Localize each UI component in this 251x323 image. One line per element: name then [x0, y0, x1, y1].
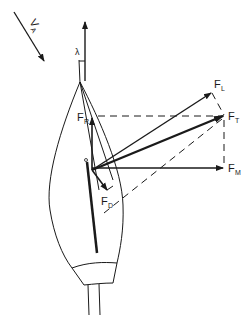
sail-lines [80, 82, 113, 190]
label-lateral: F M [228, 162, 241, 176]
apparent-wind-label: V A [26, 17, 44, 35]
sail-force-diagram: V A λ [0, 0, 251, 323]
svg-text:F: F [101, 195, 108, 207]
svg-text:M: M [235, 169, 241, 176]
boom [85, 159, 98, 254]
label-lift: F L [214, 78, 225, 92]
svg-text:D: D [108, 202, 113, 209]
label-drag: F D [101, 195, 113, 209]
leeway-angle-marker [79, 60, 85, 83]
svg-text:L: L [221, 85, 225, 92]
rudder-post [88, 284, 100, 315]
force-drag-vector [92, 170, 113, 190]
force-lift-vector [92, 93, 211, 170]
svg-text:F: F [214, 78, 221, 90]
leeway-angle-label: λ [75, 47, 80, 57]
force-total-vector [92, 116, 223, 170]
svg-text:T: T [235, 117, 240, 124]
label-total: F T [228, 110, 240, 124]
construction-lines [98, 93, 224, 213]
svg-text:F: F [228, 162, 235, 174]
svg-text:R: R [84, 118, 89, 125]
svg-text:F: F [77, 111, 84, 123]
boat-hull [49, 82, 123, 285]
svg-text:F: F [228, 110, 235, 122]
label-driving: F R [77, 111, 89, 125]
